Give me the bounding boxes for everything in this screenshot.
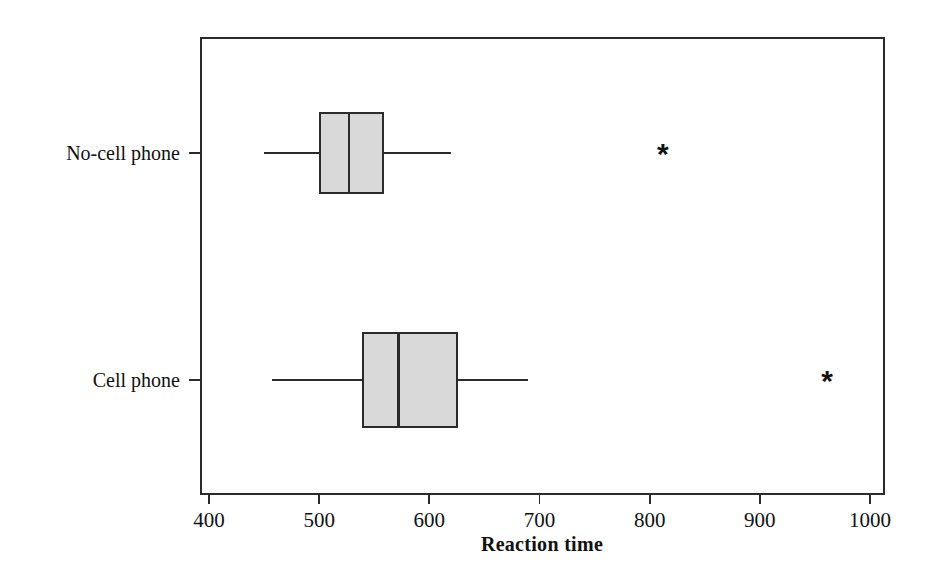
y-category-label: Cell phone xyxy=(93,369,180,392)
box-iqr xyxy=(320,113,383,193)
x-tick-label: 400 xyxy=(193,508,225,532)
outlier-marker: * xyxy=(657,137,669,170)
boxplot-box-group: * xyxy=(272,333,833,427)
y-category-label: No-cell phone xyxy=(66,142,180,165)
boxplot-box-group: * xyxy=(264,113,669,193)
outlier-marker: * xyxy=(821,364,833,397)
boxplot-series: ** xyxy=(264,113,833,427)
boxplot-figure: 4005006007008009001000 No-cell phoneCell… xyxy=(0,0,938,581)
x-tick-label: 900 xyxy=(744,508,776,532)
x-tick-label: 700 xyxy=(524,508,556,532)
boxplot-svg: 4005006007008009001000 No-cell phoneCell… xyxy=(0,0,938,581)
box-iqr xyxy=(363,333,457,427)
x-tick-label: 600 xyxy=(414,508,446,532)
y-axis-category-labels: No-cell phoneCell phone xyxy=(66,142,180,392)
x-tick-label: 500 xyxy=(303,508,335,532)
plot-frame xyxy=(201,38,884,494)
x-axis-ticks xyxy=(209,494,870,504)
x-tick-label: 800 xyxy=(634,508,666,532)
x-tick-label: 1000 xyxy=(849,508,891,532)
x-axis-title: Reaction time xyxy=(481,533,603,555)
y-axis-ticks xyxy=(189,153,201,380)
x-axis-tick-labels: 4005006007008009001000 xyxy=(193,508,891,532)
